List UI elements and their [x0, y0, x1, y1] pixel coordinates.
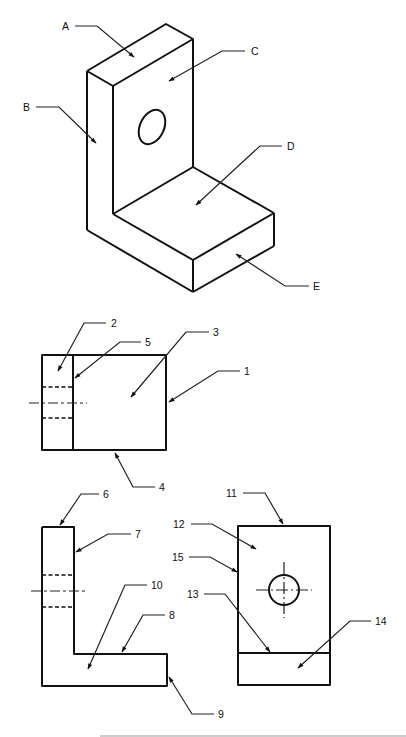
- label-7: 7: [135, 528, 141, 540]
- front-view: 6 7 8 9 10: [31, 488, 224, 720]
- leader-14: [298, 621, 371, 668]
- leader-A: [75, 26, 134, 57]
- label-C: C: [251, 45, 259, 57]
- leader-12: [191, 524, 256, 549]
- leader-11: [243, 493, 283, 524]
- label-E: E: [313, 280, 320, 292]
- label-10: 10: [151, 579, 163, 591]
- iso-hole: [134, 106, 171, 149]
- label-14: 14: [375, 615, 387, 627]
- label-3: 3: [213, 326, 219, 338]
- leader-C: [169, 51, 245, 81]
- leader-15: [189, 557, 237, 572]
- iso-edge-inner-corner: [113, 167, 193, 214]
- iso-edge-foot-back: [193, 167, 274, 213]
- leader-3: [131, 332, 209, 397]
- top-view-outline: [42, 355, 166, 450]
- leader-7: [76, 534, 131, 552]
- leader-10: [88, 585, 147, 669]
- label-12: 12: [173, 518, 185, 530]
- label-15: 15: [172, 551, 184, 563]
- label-8: 8: [169, 609, 175, 621]
- top-view: 1 2 3 4 5: [29, 317, 250, 493]
- label-A: A: [62, 20, 69, 32]
- leader-4: [115, 453, 155, 487]
- iso-edge-bottom-left: [87, 230, 193, 292]
- label-4: 4: [159, 481, 165, 493]
- leader-8: [122, 615, 165, 652]
- label-9: 9: [218, 708, 224, 720]
- isometric-view: A B C D E: [23, 20, 320, 292]
- front-view-outline: [42, 527, 167, 686]
- leader-1: [169, 371, 240, 402]
- side-view: 11 12 13 14 15: [172, 487, 387, 685]
- leader-E: [236, 254, 309, 286]
- label-6: 6: [103, 488, 109, 500]
- leader-2: [58, 323, 106, 371]
- label-5: 5: [145, 336, 151, 348]
- label-13: 13: [187, 588, 199, 600]
- label-2: 2: [111, 317, 117, 329]
- drawing-canvas: A B C D E 1 2 3 4 5 6 7: [0, 0, 406, 737]
- label-D: D: [287, 140, 295, 152]
- leader-6: [60, 494, 99, 525]
- label-B: B: [23, 101, 30, 113]
- label-1: 1: [244, 365, 250, 377]
- label-11: 11: [226, 487, 237, 499]
- leader-9: [169, 677, 214, 714]
- leader-5: [75, 342, 141, 378]
